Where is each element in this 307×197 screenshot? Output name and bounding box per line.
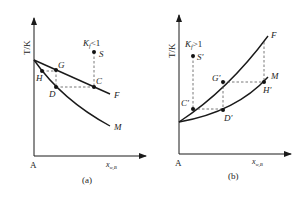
label-F: F [270, 30, 277, 40]
point-C-prime [191, 107, 195, 111]
label-F: F [113, 90, 120, 100]
x-axis-label: xw,B [251, 157, 263, 168]
label-M: M [113, 122, 122, 132]
label-G: G [58, 60, 65, 70]
point-S [92, 50, 96, 54]
point-D-prime [221, 108, 225, 112]
label-M: M [270, 71, 279, 81]
dashed-tie-lines [193, 42, 264, 109]
caption-b: (b) [228, 171, 239, 181]
point-S-prime [191, 54, 195, 58]
label-D: D [48, 89, 56, 99]
x-axis-label: xw,B [105, 160, 117, 171]
label-C: C [96, 76, 103, 86]
label-C-prime: C′ [181, 98, 190, 108]
dashed-tie-lines [42, 52, 94, 87]
label-H-prime: H′ [262, 85, 272, 95]
point-G-prime [221, 80, 225, 84]
panel-b: T/K Kf>1 S′ C′ G′ D′ H′ F M A xw,B (b) [167, 15, 291, 181]
phase-diagram-figure: T/K Kf<1 S G H D C F M A xw,B (a) [0, 0, 307, 197]
y-axis-label: T/K [22, 40, 32, 55]
label-D-prime: D′ [223, 113, 233, 123]
origin-label: A [30, 160, 37, 170]
label-condition: Kf<1 [82, 38, 100, 49]
label-S-prime: S′ [197, 52, 205, 62]
y-axis-label: T/K [167, 43, 177, 58]
label-H: H [35, 73, 43, 83]
label-condition: Kf>1 [184, 39, 202, 50]
origin-label: A [175, 158, 182, 168]
caption-a: (a) [82, 175, 92, 185]
panel-a: T/K Kf<1 S G H D C F M A xw,B (a) [22, 18, 146, 185]
label-S: S [99, 49, 104, 59]
point-H-prime [262, 80, 266, 84]
lower-curve-M [34, 60, 110, 126]
label-G-prime: G′ [212, 73, 221, 83]
